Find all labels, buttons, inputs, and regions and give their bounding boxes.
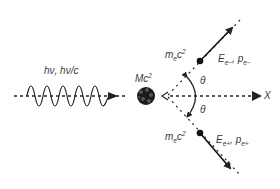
pair-production-diagram: hν, hν/c Mc2 mec2 mec2 Ee−, pe− Ee+, pe+… (0, 0, 280, 189)
nucleus-label: Mc2 (135, 73, 152, 84)
electron-rest-energy-label: mec2 (165, 49, 186, 63)
E-sub: e− (225, 59, 232, 66)
E-text: E (216, 134, 223, 145)
nucleus-label-sup: 2 (148, 72, 152, 79)
photon-label: hν, hν/c (44, 66, 78, 76)
nucleus-label-text: Mc (135, 73, 148, 84)
electron-energy-momentum-label: Ee−, pe− (218, 54, 251, 67)
positron-rest-energy-label: mec2 (165, 131, 186, 145)
p-sub: e− (243, 59, 250, 66)
positron-energy-momentum-label: Ee+, pe+ (216, 135, 249, 148)
E-text: E (218, 53, 225, 64)
sq-sup: 2 (182, 130, 186, 137)
E-sub: e+ (223, 140, 230, 147)
x-axis-arrowhead (252, 91, 262, 101)
nucleus (137, 87, 155, 105)
p-sub: e+ (241, 140, 248, 147)
photon-arrowhead (108, 92, 118, 100)
x-axis-label: X (264, 91, 271, 101)
theta-lower-label: θ (200, 105, 205, 115)
sq-sup: 2 (182, 48, 186, 55)
vertex-mark (162, 92, 168, 100)
theta-upper-label: θ (200, 76, 205, 86)
diagram-graphics (0, 0, 280, 189)
angle-arc (187, 77, 196, 117)
